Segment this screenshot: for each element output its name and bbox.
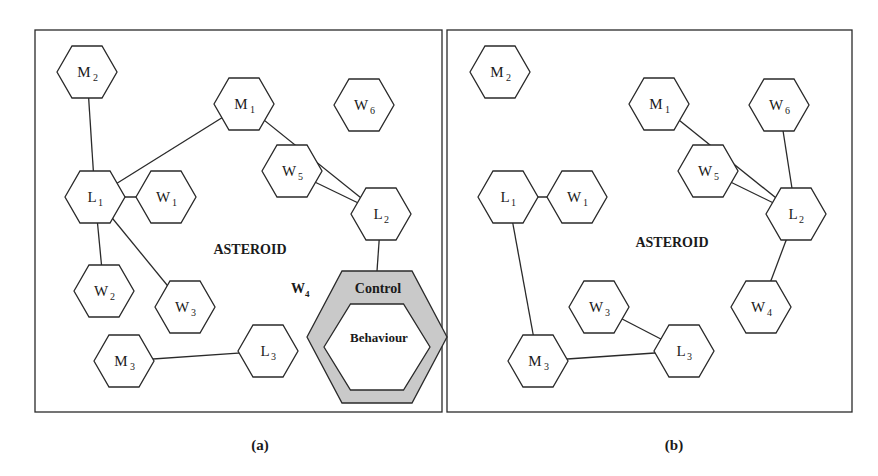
- node-subscript: 1: [250, 104, 255, 115]
- node-b-m1: M1: [629, 78, 689, 130]
- node-b-w1: W1: [547, 171, 607, 223]
- node-a-l2: L2: [351, 188, 411, 240]
- node-label: M: [528, 353, 541, 369]
- w4-subscript: 4: [305, 289, 310, 299]
- node-label: L: [373, 206, 382, 222]
- asteroid-diagram: ControlBehaviourW4 M2M1W6W5L1W1L2W2W3M3L…: [0, 0, 878, 476]
- node-label: W: [94, 283, 109, 299]
- node-b-m3: M3: [508, 335, 568, 387]
- node-b-w5: W5: [678, 145, 738, 197]
- node-label: M: [649, 96, 662, 112]
- node-subscript: 1: [172, 197, 177, 208]
- node-a-m2: M2: [57, 46, 117, 98]
- node-a-m1: M1: [214, 78, 274, 130]
- node-subscript: 1: [98, 197, 103, 208]
- node-subscript: 3: [191, 307, 196, 318]
- node-label: M: [114, 353, 127, 369]
- caption-a: (a): [251, 437, 269, 454]
- node-label: W: [567, 189, 582, 205]
- node-b-l2: L2: [766, 188, 826, 240]
- node-subscript: 6: [785, 105, 790, 116]
- caption-b: (b): [665, 437, 683, 454]
- behaviour-label: Behaviour: [350, 330, 408, 345]
- node-b-w6: W6: [749, 79, 809, 131]
- node-subscript: 1: [665, 104, 670, 115]
- node-subscript: 2: [799, 214, 804, 225]
- node-b-l1: L1: [478, 171, 538, 223]
- node-b-w4: W4: [731, 281, 791, 333]
- node-label: W: [282, 163, 297, 179]
- node-label: M: [490, 64, 503, 80]
- node-subscript: 5: [298, 171, 303, 182]
- node-subscript: 2: [384, 214, 389, 225]
- node-label: L: [87, 189, 96, 205]
- region-label-b: ASTEROID: [635, 235, 708, 250]
- node-b-m2: M2: [470, 46, 530, 98]
- node-label: M: [77, 64, 90, 80]
- node-label: L: [676, 343, 685, 359]
- node-subscript: 6: [370, 105, 375, 116]
- node-label: W: [175, 299, 190, 315]
- node-label: W: [769, 97, 784, 113]
- node-subscript: 1: [511, 197, 516, 208]
- node-a-l3: L3: [238, 325, 298, 377]
- node-b-w3: W3: [569, 281, 629, 333]
- node-label: W: [751, 299, 766, 315]
- control-label: Control: [355, 281, 402, 296]
- node-b-l3: L3: [654, 325, 714, 377]
- node-subscript: 2: [93, 72, 98, 83]
- node-subscript: 5: [714, 171, 719, 182]
- node-a-w2: W2: [74, 265, 134, 317]
- node-subscript: 1: [583, 197, 588, 208]
- node-a-l1: L1: [65, 171, 125, 223]
- control-behaviour-node: ControlBehaviourW4: [291, 271, 447, 403]
- node-label: L: [260, 343, 269, 359]
- node-subscript: 2: [506, 72, 511, 83]
- node-label: W: [156, 189, 171, 205]
- node-subscript: 3: [687, 351, 692, 362]
- node-a-m3: M3: [94, 335, 154, 387]
- region-label-a: ASTEROID: [213, 242, 286, 257]
- node-subscript: 3: [544, 361, 549, 372]
- node-label: L: [500, 189, 509, 205]
- node-label: L: [788, 206, 797, 222]
- node-subscript: 3: [271, 351, 276, 362]
- node-label: W: [589, 299, 604, 315]
- node-a-w6: W6: [334, 79, 394, 131]
- node-subscript: 3: [130, 361, 135, 372]
- node-a-w1: W1: [136, 171, 196, 223]
- node-a-w5: W5: [262, 145, 322, 197]
- node-a-w3: W3: [155, 281, 215, 333]
- node-subscript: 3: [605, 307, 610, 318]
- node-subscript: 2: [110, 291, 115, 302]
- node-label: M: [234, 96, 247, 112]
- node-label: W: [698, 163, 713, 179]
- node-subscript: 4: [767, 307, 772, 318]
- w4-label: W: [291, 281, 305, 296]
- node-label: W: [354, 97, 369, 113]
